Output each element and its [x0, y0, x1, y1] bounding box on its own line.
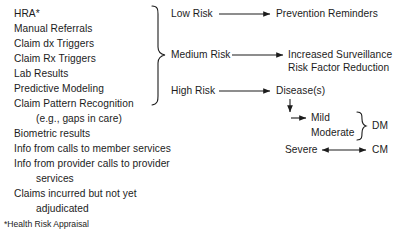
- list-item: Claim Pattern Recognition: [14, 98, 134, 109]
- outcome-increased-surveillance: Increased Surveillance: [288, 49, 392, 60]
- risk-level-medium: Medium Risk: [171, 49, 230, 60]
- severity-moderate: Moderate: [311, 127, 354, 138]
- list-item: Claim dx Triggers: [14, 38, 94, 49]
- outcome-diseases: Disease(s): [276, 85, 325, 96]
- inputs-grouping-brace: [152, 6, 165, 105]
- program-cm: CM: [372, 144, 388, 155]
- list-item: Lab Results: [14, 68, 68, 79]
- diagram-canvas: HRA* Manual Referrals Claim dx Triggers …: [0, 0, 411, 234]
- list-item: Biometric results: [14, 128, 90, 139]
- list-item: Manual Referrals: [14, 23, 92, 34]
- footnote: *Health Risk Appraisal: [4, 219, 89, 229]
- outcome-risk-factor-reduction: Risk Factor Reduction: [288, 62, 389, 73]
- list-item: Claim Rx Triggers: [14, 53, 96, 64]
- outcome-prevention-reminders: Prevention Reminders: [276, 8, 378, 19]
- risk-level-high: High Risk: [171, 85, 215, 96]
- severity-severe: Severe: [285, 144, 318, 155]
- severity-grouping-brace: [357, 112, 366, 140]
- list-item: Info from provider calls to provider: [14, 158, 170, 169]
- arrow-diseases-to-severity: [290, 99, 306, 118]
- list-item: (e.g., gaps in care): [36, 113, 122, 124]
- list-item: Predictive Modeling: [14, 83, 104, 94]
- list-item: services: [36, 173, 74, 184]
- list-item: adjudicated: [36, 203, 89, 214]
- list-item: HRA*: [14, 8, 40, 19]
- list-item: Claims incurred but not yet: [14, 188, 137, 199]
- program-dm: DM: [372, 120, 388, 131]
- list-item: Info from calls to member services: [14, 143, 171, 154]
- severity-mild: Mild: [311, 112, 330, 123]
- risk-level-low: Low Risk: [171, 8, 213, 19]
